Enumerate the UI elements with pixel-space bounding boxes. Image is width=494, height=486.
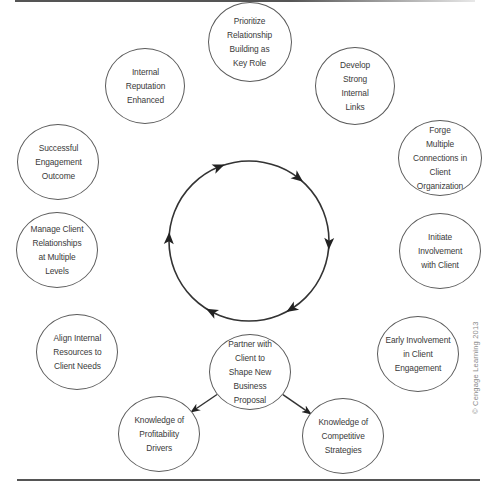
node-label: Manage Client Relationships at Multiple … xyxy=(31,222,84,278)
cycle-arrowhead-icon xyxy=(204,304,219,318)
copyright-notice: © Cengage Learning 2013 xyxy=(471,321,480,414)
node-label: Forge Multiple Connections in Client Org… xyxy=(404,123,476,193)
connector-arrow-partner-to-profitability xyxy=(192,395,217,412)
node-label: Develop Strong Internal Links xyxy=(340,58,370,114)
node-label: Knowledge of Profitability Drivers xyxy=(134,413,184,455)
cycle-circle xyxy=(169,161,329,321)
node-label: Internal Reputation Enhanced xyxy=(125,65,165,107)
node-initiate: Initiate Involvement with Client xyxy=(399,213,481,289)
node-competitive: Knowledge of Competitive Strategies xyxy=(302,398,384,474)
relationship-cycle-diagram: Prioritize Relationship Building as Key … xyxy=(0,0,494,486)
node-develop: Develop Strong Internal Links xyxy=(315,47,395,125)
node-label: Knowledge of Competitive Strategies xyxy=(318,415,368,457)
node-prioritize: Prioritize Relationship Building as Key … xyxy=(208,2,292,82)
node-manage: Manage Client Relationships at Multiple … xyxy=(16,212,98,288)
node-label: Early Involvement in Client Engagement xyxy=(383,333,453,375)
node-profitability: Knowledge of Profitability Drivers xyxy=(118,396,200,472)
node-label: Successful Engagement Outcome xyxy=(35,141,82,183)
cycle-arrowhead-icon xyxy=(284,301,299,316)
node-reputation: Internal Reputation Enhanced xyxy=(105,48,185,124)
node-early: Early Involvement in Client Engagement xyxy=(377,316,459,392)
cycle-arrowhead-icon xyxy=(212,160,227,174)
node-successful: Successful Engagement Outcome xyxy=(17,124,99,200)
node-label: Initiate Involvement with Client xyxy=(418,230,462,272)
connector-arrow-partner-to-competitive xyxy=(283,395,310,414)
node-label: Partner with Client to Shape New Busines… xyxy=(215,337,285,407)
node-forge: Forge Multiple Connections in Client Org… xyxy=(398,120,482,196)
node-label: Prioritize Relationship Building as Key … xyxy=(228,14,273,70)
node-partner: Partner with Client to Shape New Busines… xyxy=(209,334,291,410)
node-align: Align Internal Resources to Client Needs xyxy=(36,314,118,390)
node-label: Align Internal Resources to Client Needs xyxy=(53,331,101,373)
